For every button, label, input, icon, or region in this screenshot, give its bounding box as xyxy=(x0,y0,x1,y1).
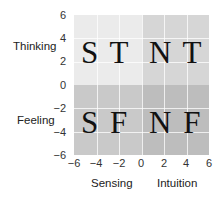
label-nt: N T xyxy=(149,37,204,68)
feeling-label: Feeling xyxy=(17,115,55,127)
thinking-label: Thinking xyxy=(13,41,56,53)
y-tick: −2 xyxy=(46,103,66,114)
label-st: S T xyxy=(81,37,130,68)
x-tick: −6 xyxy=(64,158,84,169)
x-tick: −2 xyxy=(109,158,129,169)
y-tick: −6 xyxy=(46,150,66,161)
y-tick: 6 xyxy=(46,10,66,21)
x-tick: 4 xyxy=(176,158,196,169)
x-tick: 0 xyxy=(131,158,151,169)
y-tick: −4 xyxy=(46,127,66,138)
x-tick: 2 xyxy=(154,158,174,169)
y-tick: 0 xyxy=(46,80,66,91)
label-sf: S F xyxy=(81,107,129,138)
label-nf: N F xyxy=(149,107,202,138)
x-tick: 6 xyxy=(199,158,219,169)
plot-area: S T N T S F N F xyxy=(74,15,209,155)
grid-line xyxy=(142,15,143,155)
x-tick: −4 xyxy=(86,158,106,169)
y-tick: 2 xyxy=(46,56,66,67)
intuition-label: Intuition xyxy=(157,178,197,190)
sensing-label: Sensing xyxy=(91,178,133,190)
